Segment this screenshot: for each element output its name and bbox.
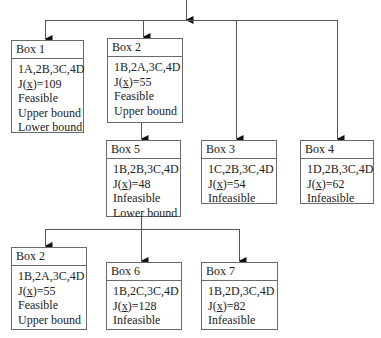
- node-bound: Lower bound: [113, 206, 180, 221]
- node-status: Infeasible: [208, 191, 276, 206]
- node-assignment: 1B,2D,3C,4D: [208, 284, 277, 299]
- node-cost: J(x)=48: [113, 177, 180, 192]
- node-title: Box 2: [108, 39, 182, 57]
- node-title: Box 6: [107, 263, 181, 281]
- node-cost: J(x)=54: [208, 177, 276, 192]
- node-title: Box 5: [107, 141, 180, 159]
- node-assignment: 1D,2B,3C,4D: [307, 162, 373, 177]
- node-assignment: 1C,2B,3C,4D: [208, 162, 276, 177]
- node-title: Box 3: [202, 141, 276, 159]
- node-box-4: Box 4 1D,2B,3C,4D J(x)=62 Infeasible: [300, 140, 374, 204]
- node-cost: J(x)=62: [307, 177, 373, 192]
- node-title: Box 1: [12, 41, 83, 59]
- node-bound: Lower bound: [18, 120, 83, 135]
- node-assignment: 1B,2C,3C,4D: [113, 284, 181, 299]
- node-bound: Upper bound: [18, 106, 83, 121]
- node-assignment: 1A,2B,3C,4D: [18, 62, 83, 77]
- node-cost: J(x)=128: [113, 299, 181, 314]
- node-cost: J(x)=109: [18, 77, 83, 92]
- node-box-7: Box 7 1B,2D,3C,4D J(x)=82 Infeasible: [201, 262, 278, 330]
- node-box-2: Box 2 1B,2A,3C,4D J(x)=55 Feasible Upper…: [107, 38, 183, 123]
- node-title: Box 7: [202, 263, 277, 281]
- node-assignment: 1B,2B,3C,4D: [113, 162, 180, 177]
- node-status: Infeasible: [113, 191, 180, 206]
- node-cost: J(x)=82: [208, 299, 277, 314]
- node-bound: Upper bound: [114, 104, 182, 119]
- node-status: Infeasible: [307, 191, 373, 206]
- node-status: Feasible: [18, 298, 86, 313]
- node-box-3: Box 3 1C,2B,3C,4D J(x)=54 Infeasible: [201, 140, 277, 204]
- node-status: Infeasible: [208, 313, 277, 328]
- node-assignment: 1B,2A,3C,4D: [18, 269, 86, 284]
- node-status: Feasible: [18, 91, 83, 106]
- node-cost: J(x)=55: [114, 75, 182, 90]
- node-title: Box 2: [12, 248, 86, 266]
- node-box-2-repeat: Box 2 1B,2A,3C,4D J(x)=55 Feasible Upper…: [11, 247, 87, 330]
- node-cost: J(x)=55: [18, 284, 86, 299]
- node-box-6: Box 6 1B,2C,3C,4D J(x)=128 Infeasible: [106, 262, 182, 330]
- node-status: Feasible: [114, 89, 182, 104]
- node-box-5: Box 5 1B,2B,3C,4D J(x)=48 Infeasible Low…: [106, 140, 181, 217]
- node-bound: Upper bound: [18, 313, 86, 328]
- node-status: Infeasible: [113, 313, 181, 328]
- node-title: Box 4: [301, 141, 373, 159]
- node-box-1: Box 1 1A,2B,3C,4D J(x)=109 Feasible Uppe…: [11, 40, 84, 133]
- node-assignment: 1B,2A,3C,4D: [114, 60, 182, 75]
